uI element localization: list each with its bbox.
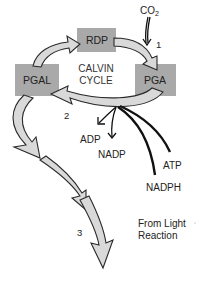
co2-subscript: 2: [155, 10, 159, 17]
arrow-pgal-output-2: [40, 156, 86, 210]
arrow-pgal-output-1: [13, 95, 40, 158]
co2-arrowhead: [143, 39, 151, 45]
step-number-3: 3: [77, 227, 82, 238]
nadp-arrow: [112, 107, 116, 137]
pgal-label: PGAL: [23, 74, 51, 86]
source-label-line1: From Light: [138, 218, 186, 229]
step-number-1: 1: [156, 39, 161, 50]
source-label-line2: Reaction: [138, 230, 177, 241]
co2-arrow-2: [148, 17, 150, 43]
rdp-label: RDP: [86, 34, 108, 46]
step-number-2: 2: [64, 110, 69, 121]
atp-label: ATP: [163, 160, 182, 171]
center-label-line2: CYCLE: [79, 75, 113, 86]
adp-label: ADP: [80, 134, 101, 145]
nadp-label: NADP: [98, 149, 126, 160]
stray-dot: [194, 222, 195, 223]
co2-label: CO2: [140, 5, 159, 17]
co2-main: CO: [140, 5, 155, 16]
arrow-pgal-to-rdp: [33, 36, 80, 67]
arrow-pgal-output-3: [80, 196, 113, 268]
center-label-line1: CALVIN: [78, 63, 113, 74]
nadph-line: [118, 107, 155, 175]
calvin-cycle-diagram: RDP PGA PGAL CALVIN CYCLE CO2 1 2 3 ADP …: [0, 0, 197, 281]
pga-label: PGA: [144, 74, 166, 86]
nadph-label: NADPH: [146, 182, 181, 193]
